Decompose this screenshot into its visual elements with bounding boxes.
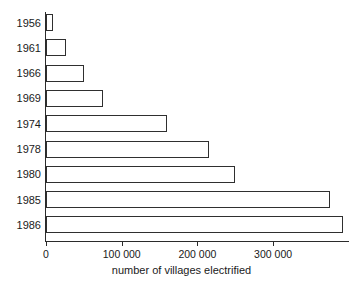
x-tick-label-0: 0 [43, 249, 49, 260]
x-tick-0 [46, 241, 47, 246]
x-tick-100000 [122, 241, 123, 246]
bar-chart: 195619611966196919741978198019851986 010… [0, 0, 363, 285]
x-tick-label-100000: 100 000 [103, 249, 141, 260]
x-tick-label-300000: 300 000 [254, 249, 292, 260]
x-tick-300000 [273, 241, 274, 246]
x-tick-label-200000: 200 000 [178, 249, 216, 260]
x-axis-title: number of villages electrified [0, 264, 363, 276]
x-tick-200000 [197, 241, 198, 246]
x-axis-ticks: 0100 000200 000300 000 [0, 0, 363, 285]
